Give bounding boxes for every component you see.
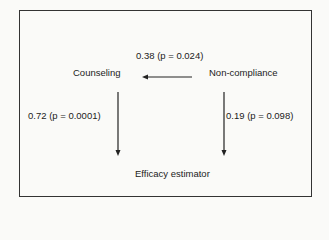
edge-label-noncompliance-counseling: 0.38 (p = 0.024) (136, 51, 203, 61)
node-counseling: Counseling (73, 68, 121, 78)
node-non-compliance: Non-compliance (209, 68, 278, 78)
node-efficacy-estimator: Efficacy estimator (135, 169, 210, 179)
edge-label-noncompliance-efficacy: 0.19 (p = 0.098) (226, 111, 293, 121)
edge-label-counseling-efficacy: 0.72 (p = 0.0001) (28, 111, 101, 121)
